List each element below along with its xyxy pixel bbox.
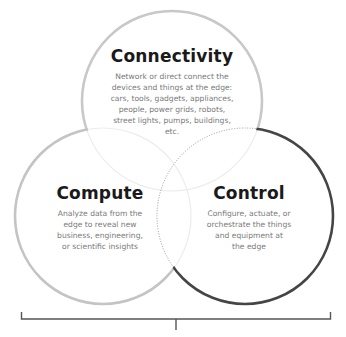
- connectivity-title: Connectivity: [92, 46, 252, 66]
- description-line: edge to reveal new: [35, 219, 165, 230]
- compute-title: Compute: [35, 183, 165, 203]
- description-line: devices and things at the edge:: [92, 82, 252, 93]
- compute-description: Analyze data from the edge to reveal new…: [35, 208, 165, 252]
- connectivity-description: Network or direct connect the devices an…: [92, 71, 252, 137]
- description-line: the edge: [184, 241, 314, 252]
- description-line: Configure, actuate, or: [184, 208, 314, 219]
- description-line: Analyze data from the: [35, 208, 165, 219]
- description-line: business, engineering,: [35, 230, 165, 241]
- control-block: Control Configure, actuate, or orchestra…: [184, 183, 314, 252]
- description-line: orchestrate the things: [184, 219, 314, 230]
- description-line: Network or direct connect the: [92, 71, 252, 82]
- description-line: etc.: [92, 126, 252, 137]
- description-line: street lights, pumps, buildings,: [92, 115, 252, 126]
- control-title: Control: [184, 183, 314, 203]
- description-line: cars, tools, gadgets, appliances,: [92, 93, 252, 104]
- description-line: and equipment at: [184, 230, 314, 241]
- control-description: Configure, actuate, or orchestrate the t…: [184, 208, 314, 252]
- compute-block: Compute Analyze data from the edge to re…: [35, 183, 165, 252]
- description-line: or scientific insights: [35, 241, 165, 252]
- bottom-bracket: [22, 312, 331, 330]
- connectivity-block: Connectivity Network or direct connect t…: [92, 46, 252, 137]
- description-line: people, power grids, robots,: [92, 104, 252, 115]
